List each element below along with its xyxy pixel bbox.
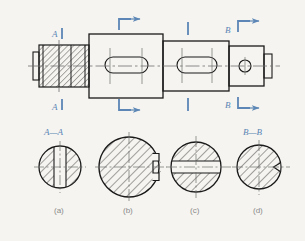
- cut-label-B-top: B: [225, 25, 231, 35]
- section-caption-d: (d): [253, 206, 263, 215]
- section-caption-b: (b): [123, 206, 133, 215]
- cut-label-B-bottom: B: [225, 100, 231, 110]
- section-title-a: A—A: [43, 127, 64, 137]
- canvas-background: [0, 0, 305, 241]
- cut-label-A-top: A: [51, 29, 58, 39]
- section-caption-c: (c): [190, 206, 200, 215]
- section-title-d: B—B: [243, 127, 263, 137]
- cut-label-A-bottom: A: [51, 102, 58, 112]
- section-caption-a: (a): [54, 206, 64, 215]
- drawing-canvas: A A B B: [0, 0, 305, 241]
